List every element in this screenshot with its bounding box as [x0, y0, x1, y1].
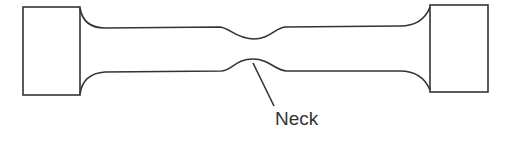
specimen-bottom-edge [80, 59, 430, 94]
specimen-diagram [0, 0, 512, 166]
left-grip [23, 7, 80, 95]
specimen-top-edge [80, 7, 430, 39]
neck-label: Neck [275, 108, 318, 130]
right-grip [430, 5, 488, 92]
neck-leader-line [253, 63, 274, 106]
